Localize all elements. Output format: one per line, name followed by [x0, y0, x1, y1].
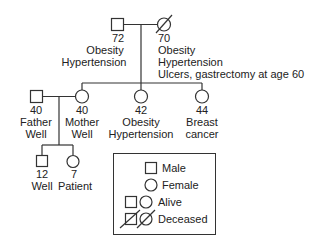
aunt2-note-1: Breast	[186, 116, 218, 128]
aunt1-circle-icon	[135, 90, 148, 103]
son-age: 12	[36, 168, 48, 180]
daughter-status: Patient	[58, 180, 92, 192]
father-role: Father	[20, 116, 52, 128]
aunt1-age: 42	[135, 104, 147, 116]
aunt1-note-2: Hypertension	[109, 128, 174, 140]
aunt1-note-1: Obesity	[122, 116, 159, 128]
aunt2-note-2: cancer	[185, 128, 218, 140]
aunt2-circle-icon	[196, 90, 209, 103]
legend-alive-label: Alive	[158, 196, 182, 208]
grandmother-age: 70	[158, 32, 170, 44]
son-square-icon	[37, 156, 48, 167]
legend-male-label: Male	[162, 162, 186, 174]
father-square-icon	[31, 91, 43, 103]
legend-deceased-label: Deceased	[158, 213, 208, 225]
grandmother-note-2: Hypertension	[158, 56, 223, 68]
grandmother-note-3: Ulcers, gastrectomy at age 60	[158, 68, 304, 80]
mother-circle-icon	[76, 90, 89, 103]
grandfather-note-1: Obesity	[86, 44, 123, 56]
grandfather-square-icon	[112, 19, 124, 31]
mother-status: Well	[71, 128, 92, 140]
father-age: 40	[30, 104, 42, 116]
mother-age: 40	[76, 104, 88, 116]
aunt2-age: 44	[196, 104, 208, 116]
mother-role: Mother	[65, 116, 99, 128]
daughter-circle-icon	[67, 156, 79, 168]
father-status: Well	[25, 128, 46, 140]
son-status: Well	[31, 180, 52, 192]
grandmother-note-1: Obesity	[158, 44, 195, 56]
grandfather-age: 72	[112, 32, 124, 44]
grandfather-note-2: Hypertension	[62, 56, 127, 68]
legend-female-label: Female	[162, 179, 199, 191]
daughter-age: 7	[71, 168, 77, 180]
